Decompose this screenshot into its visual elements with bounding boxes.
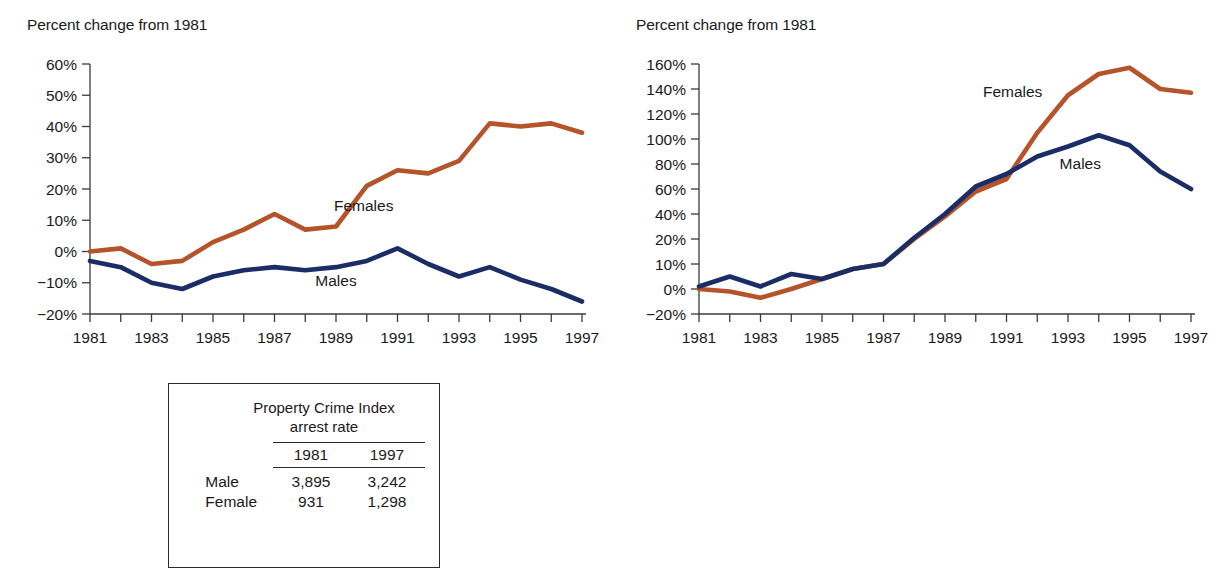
y-axis-tick-label: −10%	[37, 274, 77, 291]
chart-axis-title-right: Percent change from 1981	[636, 16, 816, 34]
x-axis-tick-label: 1985	[196, 329, 230, 346]
y-axis-tick-label: 60%	[46, 56, 77, 73]
y-axis-tick-label: −20%	[646, 306, 686, 323]
y-axis-tick-label: 50%	[46, 87, 77, 104]
y-axis-tick-label: 10%	[46, 212, 77, 229]
y-axis-tick-label: 30%	[46, 149, 77, 166]
figure-root: Percent change from 1981 60%50%40%30%20%…	[0, 0, 1218, 588]
y-axis-tick-label: 20%	[655, 231, 686, 248]
line-chart-property-crime: 60%50%40%30%20%10%0%−10%−20%198119831985…	[0, 46, 609, 376]
x-axis-tick-label: 1993	[442, 329, 476, 346]
table-row-label-female: Female	[205, 492, 273, 512]
data-table-property-crime: Property Crime Index arrest rate 1981 19…	[168, 383, 440, 568]
y-axis-tick-label: 100%	[646, 131, 686, 148]
series-line-males	[699, 135, 1191, 286]
y-axis-tick-label: 0%	[55, 243, 78, 260]
x-axis-tick-label: 1997	[565, 329, 599, 346]
series-label-males: Males	[315, 272, 357, 289]
y-axis-tick-label: 40%	[46, 118, 77, 135]
line-chart-aggravated-assault: 160%140%120%100%80%60%40%20%10%0%−20%198…	[609, 46, 1218, 376]
y-axis-tick-label: 0%	[664, 281, 687, 298]
table-cell-male-1997: 3,242	[349, 468, 425, 493]
x-axis-tick-label: 1981	[682, 329, 716, 346]
y-axis-tick-label: 120%	[646, 106, 686, 123]
chart-axis-title-left: Percent change from 1981	[27, 16, 207, 34]
table-title-line1: Property Crime Index	[253, 399, 395, 416]
y-axis-tick-label: 80%	[655, 156, 686, 173]
x-axis-tick-label: 1987	[257, 329, 291, 346]
table-row: Male 3,895 3,242	[205, 468, 425, 493]
x-axis-tick-label: 1995	[1112, 329, 1146, 346]
y-axis-tick-label: 40%	[655, 206, 686, 223]
table-cell-female-1997: 1,298	[349, 492, 425, 512]
x-axis-tick-label: 1981	[73, 329, 107, 346]
x-axis-tick-label: 1989	[928, 329, 962, 346]
x-axis-tick-label: 1991	[989, 329, 1023, 346]
x-axis-tick-label: 1985	[805, 329, 839, 346]
y-axis-tick-label: 140%	[646, 81, 686, 98]
series-label-females: Females	[983, 83, 1043, 100]
chart-panel-property-crime: Percent change from 1981 60%50%40%30%20%…	[0, 0, 609, 588]
x-axis-tick-label: 1993	[1051, 329, 1085, 346]
table-corner-cell	[205, 443, 273, 468]
series-line-females	[90, 123, 582, 264]
table-cell-female-1981: 931	[273, 492, 349, 512]
x-axis-tick-label: 1997	[1174, 329, 1208, 346]
table-title-property-crime: Property Crime Index arrest rate	[183, 398, 425, 436]
y-axis-tick-label: 60%	[655, 181, 686, 198]
x-axis-tick-label: 1989	[319, 329, 353, 346]
table-col-header-1997: 1997	[349, 443, 425, 468]
series-line-females	[699, 68, 1191, 298]
table-col-header-1981: 1981	[273, 443, 349, 468]
y-axis-tick-label: 160%	[646, 56, 686, 73]
table-cell-male-1981: 3,895	[273, 468, 349, 493]
series-label-females: Females	[334, 197, 394, 214]
table-row: Female 931 1,298	[205, 492, 425, 512]
x-axis-tick-label: 1987	[866, 329, 900, 346]
table-row-label-male: Male	[205, 468, 273, 493]
chart-panel-aggravated-assault: Percent change from 1981 160%140%120%100…	[609, 0, 1218, 588]
series-label-males: Males	[1060, 155, 1102, 172]
y-axis-tick-label: −20%	[37, 306, 77, 323]
x-axis-tick-label: 1991	[380, 329, 414, 346]
table-header-row: 1981 1997	[205, 443, 425, 468]
table-title-line2: arrest rate	[223, 417, 425, 436]
table-property-crime: 1981 1997 Male 3,895 3,242 Female 931 1,…	[205, 442, 425, 512]
y-axis-tick-label: 20%	[46, 181, 77, 198]
y-axis-tick-label: 10%	[655, 256, 686, 273]
x-axis-tick-label: 1983	[743, 329, 777, 346]
x-axis-tick-label: 1983	[134, 329, 168, 346]
x-axis-tick-label: 1995	[503, 329, 537, 346]
